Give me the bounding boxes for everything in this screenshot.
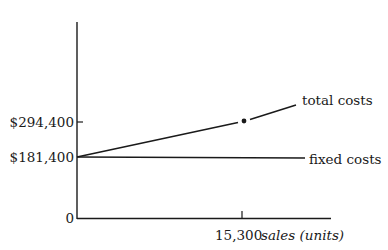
y-tick-label-high: $294,400 [10, 114, 74, 130]
break-even-point-marker [242, 119, 247, 124]
x-axis-label: sales (units) [261, 227, 344, 243]
origin-label: 0 [65, 210, 74, 226]
total-costs-label: total costs [302, 92, 373, 108]
x-tick-label: 15,300 [215, 227, 262, 243]
y-tick-label-low: $181,400 [10, 149, 74, 165]
fixed-costs-line [77, 157, 305, 158]
total-costs-line-segment-2 [250, 105, 296, 120]
fixed-costs-label: fixed costs [309, 151, 382, 167]
break-even-chart: $294,400 $181,400 0 15,300 sales (units)… [0, 0, 388, 250]
total-costs-line-segment-1 [77, 123, 238, 158]
